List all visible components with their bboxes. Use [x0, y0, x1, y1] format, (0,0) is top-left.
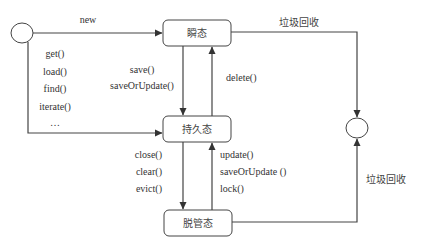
label-clear: clear()	[136, 166, 162, 178]
label-delete: delete()	[226, 72, 257, 84]
label-evict: evict()	[136, 183, 162, 195]
label-update: update()	[220, 149, 253, 161]
hibernate-state-diagram: new get() load() find() iterate() … 瞬态 持…	[0, 0, 423, 249]
label-saveorupdate-2: saveOrUpdate ()	[220, 166, 286, 178]
start-node	[11, 23, 33, 43]
label-iterate: iterate()	[39, 101, 71, 113]
label-load: load()	[43, 66, 67, 78]
label-find: find()	[44, 83, 67, 95]
state-persistent-label: 持久态	[182, 123, 212, 135]
label-close: close()	[135, 149, 162, 161]
state-transient: 瞬态	[163, 20, 231, 46]
label-save: save()	[130, 64, 154, 76]
label-new: new	[80, 14, 97, 25]
label-get: get()	[46, 48, 65, 60]
label-gc-top: 垃圾回收	[279, 16, 319, 28]
state-transient-label: 瞬态	[187, 27, 207, 39]
state-detached-label: 脱管态	[183, 217, 213, 229]
label-ellipsis: …	[50, 117, 60, 128]
state-detached: 脱管态	[164, 210, 232, 236]
label-gc-bottom: 垃圾回收	[366, 173, 406, 185]
end-node	[346, 118, 368, 138]
label-lock: lock()	[220, 183, 244, 195]
state-persistent: 持久态	[163, 116, 231, 142]
label-saveorupdate: saveOrUpdate()	[110, 80, 174, 92]
